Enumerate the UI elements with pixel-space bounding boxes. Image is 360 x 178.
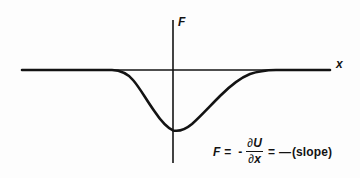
y-axis-label: F: [178, 15, 186, 29]
equation-minus-second: —: [279, 146, 290, 158]
fraction-denominator-variable: x: [254, 152, 261, 166]
partial-derivative-fraction: ∂U ∂x: [246, 137, 263, 166]
equation-lhs-symbol: F: [213, 146, 220, 158]
equation-minus-first: -: [238, 146, 242, 158]
fraction-numerator: ∂U: [246, 137, 263, 151]
equation-equals-second: =: [268, 146, 275, 158]
force-curve: [22, 70, 330, 131]
force-potential-figure: F x F = - ∂U ∂x = — (slope): [0, 0, 360, 178]
equation-equals-first: =: [224, 146, 231, 158]
fraction-denominator: ∂x: [247, 152, 262, 166]
equation-slope-term: (slope): [292, 146, 332, 158]
fraction-numerator-variable: U: [253, 136, 262, 150]
equation-annotation: F = - ∂U ∂x = — (slope): [213, 138, 332, 167]
x-axis-label: x: [336, 57, 343, 71]
